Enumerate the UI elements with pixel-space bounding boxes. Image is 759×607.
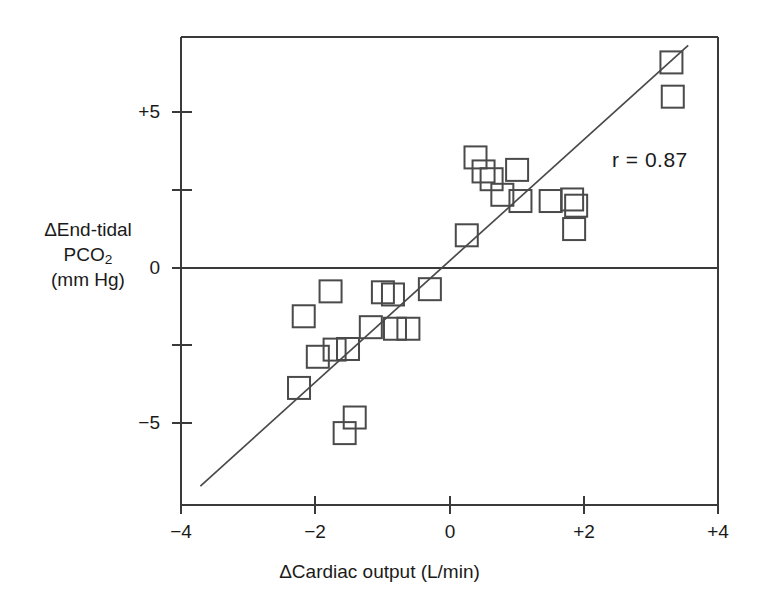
y-axis-title: ΔEnd-tidal PCO2 (mm Hg): [8, 218, 168, 293]
x-tick-label-4: +4: [688, 522, 748, 541]
scatter-plot-figure: +5 0 −5 −4 −2 0 +2 +4 r = 0.87 ΔEnd-tida…: [0, 0, 759, 607]
data-point-marker: [540, 190, 562, 212]
y-axis-title-subscript: 2: [105, 252, 113, 267]
y-axis-title-line1: ΔEnd-tidal: [8, 218, 168, 243]
y-axis-title-line2: PCO2: [8, 243, 168, 269]
x-tick-label-0: 0: [420, 522, 480, 541]
y-tick-label-5: +5: [108, 102, 160, 121]
data-point-marker: [397, 318, 419, 340]
data-point-marker: [456, 224, 478, 246]
y-axis-title-pco: PCO: [64, 244, 105, 265]
y-axis-title-line3: (mm Hg): [8, 268, 168, 293]
regression-line: [200, 45, 688, 486]
x-tick-label-neg4: −4: [151, 522, 211, 541]
data-point-marker: [506, 159, 528, 181]
data-point-marker: [465, 146, 487, 168]
plot-frame: [181, 37, 718, 505]
x-axis-title: ΔCardiac output (L/min): [0, 560, 759, 584]
data-point-marker: [384, 318, 406, 340]
data-point-marker: [660, 51, 682, 73]
correlation-annotation: r = 0.87: [612, 148, 688, 172]
data-point-marker: [419, 278, 441, 300]
data-point-marker: [360, 316, 382, 338]
data-point-marker: [563, 218, 585, 240]
data-point-marker: [473, 160, 495, 182]
data-point-group: [288, 51, 684, 444]
data-point-marker: [307, 346, 329, 368]
data-point-marker: [662, 86, 684, 108]
data-point-marker: [288, 377, 310, 399]
x-tick-label-neg2: −2: [285, 522, 345, 541]
x-tick-label-2: +2: [554, 522, 614, 541]
data-point-marker: [293, 305, 315, 327]
data-point-marker: [337, 338, 359, 360]
plot-canvas: [0, 0, 759, 607]
y-tick-label-neg5: −5: [108, 413, 160, 432]
data-point-marker: [320, 280, 342, 302]
